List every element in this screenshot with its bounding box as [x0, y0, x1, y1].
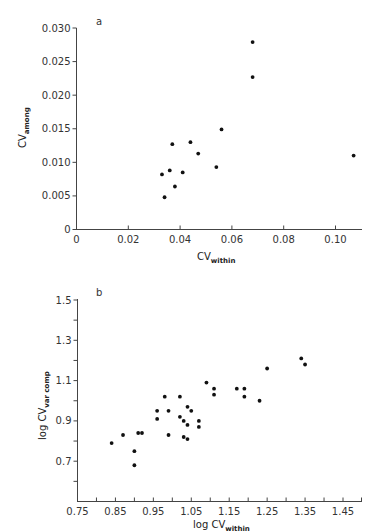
- data-point: [214, 165, 218, 169]
- y-tick-label: 0.025: [42, 56, 71, 67]
- y-tick-label: 0.020: [42, 90, 71, 101]
- y-tick-label: 1.1: [56, 375, 72, 386]
- data-point: [163, 195, 167, 199]
- x-tick-label: 0.75: [66, 506, 88, 517]
- data-point: [168, 168, 172, 172]
- x-tick-label: 1.15: [218, 506, 240, 517]
- data-point: [189, 409, 193, 413]
- data-points-a: [160, 40, 355, 199]
- x-tick-label: 1.45: [332, 506, 354, 517]
- data-point: [186, 437, 190, 441]
- data-point: [258, 399, 262, 403]
- x-tick-label: 0: [73, 234, 79, 245]
- x-tick-label: 1.05: [180, 506, 202, 517]
- data-point: [352, 154, 356, 158]
- data-point: [235, 387, 239, 391]
- data-point: [140, 431, 144, 435]
- y-tick-label: 0.030: [42, 23, 71, 34]
- x-tick-label: 0.04: [169, 234, 191, 245]
- data-points-b: [110, 357, 307, 468]
- panel-label-b: b: [96, 287, 102, 298]
- y-tick-label: 0.005: [42, 190, 71, 201]
- data-point: [167, 409, 171, 413]
- data-point: [110, 441, 114, 445]
- y-tick-label: 1.3: [56, 335, 72, 346]
- data-point: [160, 173, 164, 177]
- data-point: [136, 431, 140, 435]
- data-point: [189, 140, 193, 144]
- data-point: [220, 128, 224, 132]
- x-tick-label: 0.10: [324, 234, 346, 245]
- x-ticks-a: 00.020.040.060.080.10: [73, 226, 346, 245]
- data-point: [132, 449, 136, 453]
- data-point: [182, 419, 186, 423]
- x-tick-label: 0.06: [221, 234, 243, 245]
- data-point: [155, 409, 159, 413]
- y-tick-label: 0.7: [56, 456, 72, 467]
- data-point: [178, 415, 182, 419]
- data-point: [196, 152, 200, 156]
- data-point: [186, 423, 190, 427]
- data-point: [251, 40, 255, 44]
- y-tick-label: 0: [64, 224, 70, 235]
- data-point: [163, 395, 167, 399]
- x-tick-label: 0.95: [142, 506, 164, 517]
- figure: a 00.0050.0100.0150.0200.0250.030 00.020…: [0, 0, 382, 532]
- x-axis-label-b: log CVwithin: [193, 519, 250, 532]
- data-point: [251, 75, 255, 79]
- x-tick-label: 0.02: [117, 234, 139, 245]
- data-point: [242, 387, 246, 391]
- data-point: [178, 395, 182, 399]
- data-point: [155, 417, 159, 421]
- data-point: [167, 433, 171, 437]
- x-axis-label-a: CVwithin: [197, 251, 235, 265]
- chart-panel-b: b 0.70.91.11.31.5 0.750.850.951.051.151.…: [37, 287, 362, 532]
- data-point: [170, 142, 174, 146]
- x-tick-label: 1.35: [294, 506, 316, 517]
- data-point: [303, 363, 307, 367]
- data-point: [205, 381, 209, 385]
- y-axis-label-a: CVamong: [17, 107, 31, 148]
- y-ticks-b: 0.70.91.11.31.5: [56, 295, 78, 482]
- chart-panel-a: a 00.0050.0100.0150.0200.0250.030 00.020…: [17, 16, 362, 265]
- y-tick-label: 1.5: [56, 295, 72, 306]
- data-point: [173, 185, 177, 189]
- x-ticks-b: 0.750.850.951.051.151.251.351.45: [66, 498, 361, 517]
- data-point: [132, 463, 136, 467]
- y-tick-label: 0.9: [56, 415, 72, 426]
- y-ticks-a: 00.0050.0100.0150.0200.0250.030: [42, 23, 77, 236]
- data-point: [212, 393, 216, 397]
- data-point: [197, 419, 201, 423]
- y-axis-label-b: log CVvar comp: [37, 371, 51, 440]
- data-point: [265, 367, 269, 371]
- x-tick-label: 0.08: [273, 234, 295, 245]
- x-tick-label: 0.85: [104, 506, 126, 517]
- data-point: [186, 405, 190, 409]
- y-tick-label: 0.010: [42, 157, 71, 168]
- y-tick-label: 0.015: [42, 123, 71, 134]
- data-point: [212, 387, 216, 391]
- data-point: [242, 395, 246, 399]
- data-point: [121, 433, 125, 437]
- data-point: [182, 435, 186, 439]
- data-point: [299, 357, 303, 361]
- data-point: [197, 425, 201, 429]
- data-point: [181, 171, 185, 175]
- panel-label-a: a: [96, 16, 102, 27]
- x-tick-label: 1.25: [256, 506, 278, 517]
